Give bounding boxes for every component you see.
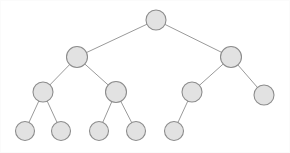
tree-edge: [47, 101, 57, 123]
tree-node: [146, 10, 166, 30]
tree-node: [165, 122, 184, 141]
tree-edge: [121, 101, 132, 123]
tree-node: [127, 122, 146, 141]
tree-node: [221, 47, 242, 68]
tree-edge: [103, 101, 112, 123]
tree-edge: [199, 64, 223, 86]
tree-node: [67, 47, 88, 68]
tree-node: [52, 122, 71, 141]
tree-node: [254, 85, 274, 105]
tree-diagram-canvas: [0, 0, 290, 153]
tree-node: [33, 82, 53, 102]
tree-edge: [86, 24, 147, 53]
tree-edge: [29, 101, 39, 123]
tree-edge: [178, 101, 188, 123]
tree-node-layer: [16, 10, 275, 141]
tree-node: [90, 122, 109, 141]
tree-edge: [165, 24, 223, 52]
tree-node: [106, 82, 127, 103]
tree-edge: [238, 65, 258, 88]
tree-edge: [84, 64, 108, 86]
tree-node: [16, 122, 35, 141]
tree-node: [182, 82, 202, 102]
tree-diagram-figure: [0, 0, 290, 153]
tree-edge: [50, 64, 70, 85]
tree-edge-layer: [29, 24, 258, 123]
